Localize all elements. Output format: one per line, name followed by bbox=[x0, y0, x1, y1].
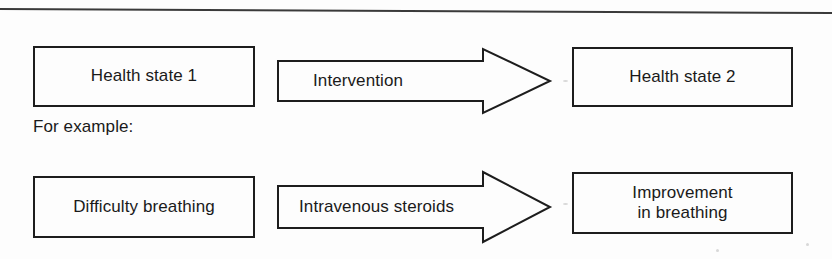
scan-speck bbox=[563, 203, 568, 205]
intravenous-steroids-arrow: Intravenous steroids bbox=[277, 171, 551, 243]
health-state-2-label: Health state 2 bbox=[629, 67, 735, 87]
health-state-1-label: Health state 1 bbox=[91, 66, 197, 86]
intervention-arrow: Intervention bbox=[277, 48, 551, 114]
health-state-2-box: Health state 2 bbox=[572, 47, 793, 107]
scan-speck bbox=[806, 243, 809, 246]
difficulty-breathing-label: Difficulty breathing bbox=[73, 197, 215, 217]
scan-speck bbox=[563, 80, 568, 82]
improvement-in-breathing-label: Improvement in breathing bbox=[632, 183, 732, 223]
improvement-line-1: Improvement bbox=[632, 183, 732, 202]
page-divider-rule bbox=[0, 8, 832, 14]
difficulty-breathing-box: Difficulty breathing bbox=[33, 176, 255, 238]
scan-speck bbox=[716, 249, 719, 252]
improvement-in-breathing-box: Improvement in breathing bbox=[572, 172, 793, 234]
improvement-line-2: in breathing bbox=[632, 203, 732, 223]
intravenous-steroids-arrow-label: Intravenous steroids bbox=[299, 197, 454, 217]
health-state-1-box: Health state 1 bbox=[33, 46, 255, 107]
for-example-caption: For example: bbox=[33, 117, 133, 137]
intervention-arrow-label: Intervention bbox=[313, 71, 403, 91]
diagram-canvas: Health state 1 Intervention Health state… bbox=[0, 0, 832, 259]
